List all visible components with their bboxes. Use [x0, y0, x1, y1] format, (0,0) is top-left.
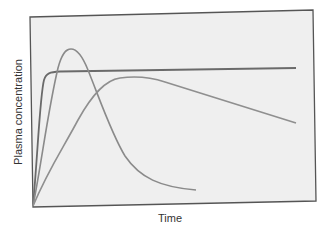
- y-axis-label: Plasma concentration: [12, 59, 24, 165]
- plot-area: [30, 10, 316, 207]
- chart-canvas: [0, 0, 330, 229]
- x-axis-label: Time: [158, 212, 182, 224]
